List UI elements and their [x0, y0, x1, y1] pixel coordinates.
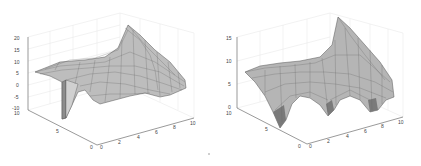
svg-text:8: 8 [173, 124, 176, 130]
svg-text:4: 4 [137, 134, 140, 140]
svg-text:6: 6 [155, 129, 158, 135]
surface-plot-left: 20 15 10 5 0 -5 -10 10 5 0 0 2 4 6 8 10 [0, 0, 210, 166]
svg-text:10: 10 [14, 59, 20, 65]
y-axis-ticks: 10 5 0 [226, 110, 301, 149]
svg-text:0: 0 [90, 144, 93, 150]
surface-mesh [245, 17, 394, 128]
svg-text:20: 20 [14, 35, 20, 41]
svg-text:0: 0 [298, 143, 301, 149]
z-axis-ticks: 20 15 10 5 0 -5 -10 [12, 35, 20, 111]
svg-text:10: 10 [226, 58, 232, 64]
svg-text:15: 15 [226, 35, 232, 41]
svg-text:-5: -5 [14, 94, 19, 100]
svg-text:0: 0 [309, 143, 312, 149]
svg-text:10: 10 [398, 119, 404, 125]
y-axis-ticks: 10 5 0 [14, 110, 93, 150]
x-axis-ticks: 0 2 4 6 8 10 [309, 119, 404, 149]
svg-text:5: 5 [265, 126, 268, 132]
svg-text:0: 0 [16, 82, 19, 88]
x-axis-ticks: 0 2 4 6 8 10 [100, 120, 196, 150]
svg-text:4: 4 [346, 133, 349, 139]
stray-mark [208, 153, 210, 155]
svg-text:5: 5 [16, 70, 19, 76]
surface-mesh [35, 25, 186, 119]
svg-text:8: 8 [381, 123, 384, 129]
svg-text:2: 2 [327, 138, 330, 144]
surface-plot-right-canvas: 15 10 5 0 10 5 0 0 2 4 6 8 10 [210, 0, 421, 166]
svg-text:10: 10 [190, 120, 196, 126]
svg-text:5: 5 [56, 128, 59, 134]
svg-text:6: 6 [364, 128, 367, 134]
svg-text:10: 10 [226, 110, 232, 116]
z-axis-ticks: 15 10 5 0 [226, 35, 232, 110]
surface-plot-left-canvas: 20 15 10 5 0 -5 -10 10 5 0 0 2 4 6 8 10 [0, 0, 210, 166]
svg-text:15: 15 [14, 47, 20, 53]
surface-plot-right: 15 10 5 0 10 5 0 0 2 4 6 8 10 [210, 0, 420, 166]
svg-text:10: 10 [14, 110, 20, 116]
svg-text:2: 2 [118, 139, 121, 145]
svg-text:5: 5 [228, 81, 231, 87]
svg-text:0: 0 [100, 144, 103, 150]
